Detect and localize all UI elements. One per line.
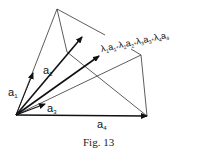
vector-a4 (16, 115, 147, 116)
label-a2: a2 (43, 64, 53, 77)
figure-caption: Fig. 13 (83, 136, 115, 148)
vector-subscript: 4 (166, 35, 170, 41)
label-a1: a1 (8, 86, 18, 99)
edge-top-inner (57, 9, 67, 52)
label-a3: a3 (47, 102, 57, 115)
diagram-canvas: a1 a2 a3 a4 λ1a1+λ2a2+λ3a3+λ4a4 Fig. 13 (0, 0, 198, 153)
label-a4: a4 (97, 118, 107, 131)
edge-mid-bottom (141, 55, 147, 116)
edge-inner-bottom (67, 52, 147, 116)
edge-mid-small (131, 49, 141, 55)
edge-top-right (57, 9, 105, 35)
edge-origin-mid (16, 55, 141, 115)
